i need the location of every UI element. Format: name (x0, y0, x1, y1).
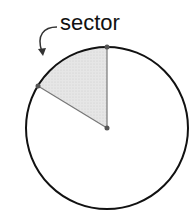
sector-shaded-region (38, 47, 107, 128)
arrowhead-icon (38, 48, 46, 56)
arc-point-top (105, 45, 110, 50)
arc-point-left (36, 84, 41, 89)
center-point (105, 126, 110, 131)
sector-label: sector (60, 12, 120, 34)
curved-arrow-icon (40, 27, 57, 52)
